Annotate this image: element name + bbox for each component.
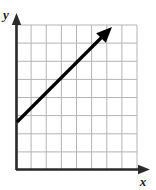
x-axis-label: x	[139, 174, 147, 189]
y-axis-label: y	[1, 7, 9, 22]
coordinate-graph: y x	[0, 0, 156, 190]
y-axis-arrow-icon	[12, 13, 21, 25]
x-axis-arrow-icon	[138, 165, 150, 174]
graph-figure: y x	[0, 0, 156, 190]
